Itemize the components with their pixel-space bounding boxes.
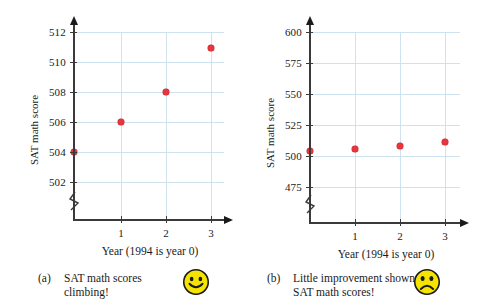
gridline-h <box>74 32 224 33</box>
x-tick-label: 2 <box>158 228 174 239</box>
y-tick-label: 600 <box>270 27 302 38</box>
y-axis-label: SAT math score <box>264 98 276 168</box>
panel-a: 512 510 508 506 504 502 1 2 3 SAT math s… <box>0 0 241 308</box>
y-tick <box>306 187 313 188</box>
y-axis-arrow-icon <box>70 16 78 25</box>
gridline-h <box>74 62 224 63</box>
gridline-h <box>310 63 460 64</box>
x-tick <box>121 216 122 223</box>
data-point <box>442 139 448 145</box>
x-tick <box>445 219 446 226</box>
y-tick <box>70 152 77 153</box>
gridline-h <box>74 92 224 93</box>
panel-b-caption-line-2: SAT math scores! <box>293 286 427 300</box>
data-point <box>208 45 214 51</box>
y-tick <box>70 62 77 63</box>
gridline-h <box>310 156 460 157</box>
y-tick <box>70 182 77 183</box>
x-axis-label: Year (1994 is year 0) <box>296 248 476 260</box>
gridline-h <box>310 94 460 95</box>
data-point <box>118 119 124 125</box>
y-tick-label: 575 <box>270 58 302 69</box>
x-tick-label: 1 <box>347 231 363 242</box>
panel-b-tag: (b) <box>267 272 280 286</box>
y-tick <box>70 92 77 93</box>
plot-area-a <box>74 32 224 219</box>
y-tick <box>70 32 77 33</box>
panel-b: 600 575 550 525 500 475 1 2 3 SAT math s… <box>241 0 482 308</box>
y-axis-label: SAT math score <box>28 95 40 165</box>
y-axis-arrow-icon <box>306 16 314 25</box>
gridline-h <box>74 152 224 153</box>
x-axis-arrow-icon <box>224 216 233 224</box>
gridline-v <box>355 32 356 222</box>
y-tick <box>306 63 313 64</box>
x-axis-label: Year (1994 is year 0) <box>60 245 240 257</box>
x-tick-label: 1 <box>113 228 129 239</box>
y-tick <box>306 32 313 33</box>
y-tick <box>306 125 313 126</box>
x-axis-line <box>309 222 461 224</box>
plot-area-b <box>310 32 460 222</box>
gridline-v <box>445 32 446 222</box>
panel-b-caption: (b) Little improvement shown in SAT math… <box>267 272 427 299</box>
x-tick <box>355 219 356 226</box>
x-tick-label: 3 <box>203 228 219 239</box>
x-tick-label: 3 <box>437 231 453 242</box>
x-axis-arrow-icon <box>460 219 469 227</box>
x-tick <box>166 216 167 223</box>
smiley-face-icon <box>182 268 210 296</box>
y-tick <box>306 94 313 95</box>
gridline-v <box>166 32 167 219</box>
panel-b-caption-line-1: Little improvement shown in <box>293 272 427 286</box>
axis-break-icon <box>302 194 318 216</box>
gridline-h <box>310 125 460 126</box>
panel-a-caption-line-1: SAT math scores climbing! <box>64 272 188 299</box>
x-tick <box>211 216 212 223</box>
y-tick <box>70 122 77 123</box>
data-point <box>163 89 169 95</box>
y-tick-label: 512 <box>34 27 66 38</box>
gridline-h <box>310 32 460 33</box>
y-tick-label: 510 <box>34 57 66 68</box>
gridline-h <box>74 182 224 183</box>
gridline-v <box>400 32 401 222</box>
y-tick-label: 475 <box>270 182 302 193</box>
y-tick <box>306 156 313 157</box>
x-axis-line <box>73 219 225 221</box>
frowny-face-icon <box>413 268 441 296</box>
gridline-h <box>74 122 224 123</box>
data-point <box>397 143 403 149</box>
axis-break-icon <box>66 191 82 213</box>
gridline-v <box>121 32 122 219</box>
gridline-h <box>310 187 460 188</box>
x-tick-label: 2 <box>392 231 408 242</box>
x-tick <box>400 219 401 226</box>
panel-a-tag: (a) <box>38 272 51 286</box>
figure-two-panel-sat-scores: 512 510 508 506 504 502 1 2 3 SAT math s… <box>0 0 483 308</box>
y-tick-label: 502 <box>34 177 66 188</box>
panel-a-caption: (a) SAT math scores climbing! <box>38 272 188 299</box>
gridline-v <box>211 32 212 219</box>
data-point <box>352 146 358 152</box>
